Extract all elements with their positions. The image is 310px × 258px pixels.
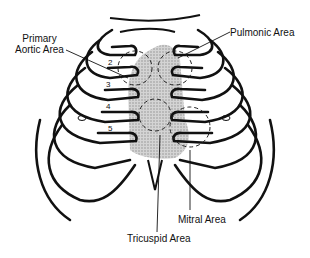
primary-aortic-line2: Aortic Area [15,44,64,55]
primary-aortic-line1: Primary [15,33,64,44]
tricuspid-area-label: Tricuspid Area [127,233,191,244]
rib-number-3: 3 [106,80,111,89]
rib-number-5: 5 [108,124,113,133]
rib-number-4: 4 [106,102,111,111]
chest-diagram: 2 3 4 5 Primary Aortic Area Pulmonic Are… [0,0,310,258]
primary-aortic-area-label: Primary Aortic Area [15,33,64,55]
pulmonic-area-label: Pulmonic Area [230,27,294,38]
left-ribs [36,30,138,220]
mitral-area-label: Mitral Area [178,214,226,225]
rib-number-2: 2 [108,58,113,67]
